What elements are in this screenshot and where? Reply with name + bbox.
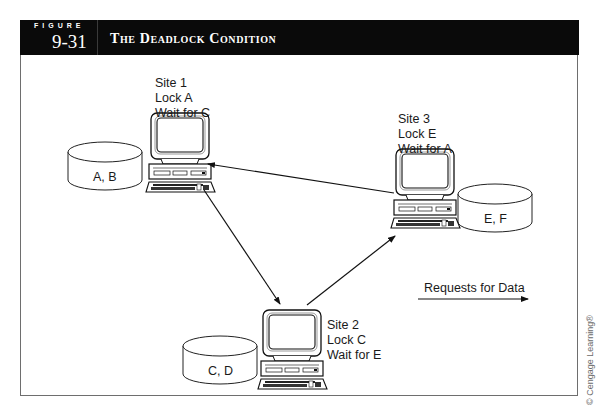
site-3-lock: Lock E	[398, 127, 452, 142]
request-arrow-site2-to-site3	[307, 236, 395, 305]
site-3-name: Site 3	[398, 112, 452, 127]
request-arrow-site3-to-site1	[208, 164, 394, 193]
site-2-wait: Wait for E	[327, 348, 381, 363]
site-3-wait: Wait for A	[398, 142, 452, 157]
deadlock-diagram	[0, 0, 609, 418]
copyright-notice: © Cengage Learning®	[585, 315, 595, 405]
site-1-name: Site 1	[155, 76, 210, 91]
database-ef-label: E, F	[484, 212, 507, 226]
database-ab-label: A, B	[93, 170, 117, 184]
site-2-label: Site 2 Lock C Wait for E	[327, 318, 381, 363]
site-3-label: Site 3 Lock E Wait for A	[398, 112, 452, 157]
request-arrow-site1-to-site2	[204, 190, 280, 304]
legend-label: Requests for Data	[424, 281, 525, 295]
site-2-computer-icon	[258, 310, 327, 389]
site-3-computer-icon	[391, 149, 460, 228]
site-2-lock: Lock C	[327, 333, 381, 348]
site-2-name: Site 2	[327, 318, 381, 333]
site-1-lock: Lock A	[155, 91, 210, 106]
site-1-label: Site 1 Lock A Wait for C	[155, 76, 210, 121]
database-cd-label: C, D	[208, 364, 233, 378]
site-1-computer-icon	[146, 113, 215, 192]
site-1-wait: Wait for C	[155, 106, 210, 121]
